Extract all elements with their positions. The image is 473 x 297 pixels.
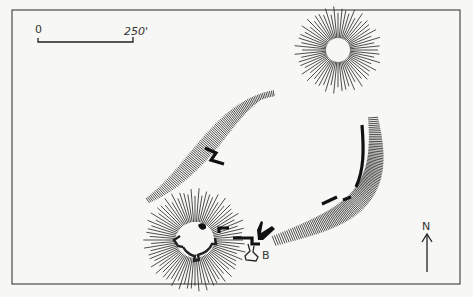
curtain-wall-mid xyxy=(343,197,351,200)
north-east-mound xyxy=(295,6,380,93)
scale-end-label: 250' xyxy=(124,25,148,38)
north-arrow: N xyxy=(422,220,432,272)
north-west-bank xyxy=(146,90,275,203)
scale-start-label: 0 xyxy=(35,23,42,36)
north-label: N xyxy=(422,220,430,233)
scale-line xyxy=(38,37,133,42)
site-plan: 0 250' N B xyxy=(0,0,473,297)
building-b-label: B xyxy=(262,249,270,262)
east-bank xyxy=(270,117,384,246)
scale-bar: 0 250' xyxy=(35,23,148,42)
curtain-wall-south xyxy=(322,197,337,204)
building-b: B xyxy=(245,244,270,262)
